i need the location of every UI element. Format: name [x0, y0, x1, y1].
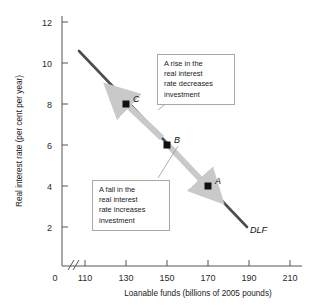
x-tick-label-210: 210	[282, 273, 297, 283]
loanable-funds-demand-figure: 12 10 8 6 4 2 0 110 130 150 170 190 210 …	[0, 0, 316, 305]
x-axis-title: Loanable funds (billions of 2005 pounds)	[124, 289, 272, 298]
data-point-a	[205, 183, 212, 190]
y-tick-label-10: 10	[42, 59, 52, 69]
callout-fall-line-3: rate increases	[99, 205, 164, 215]
callout-rise: A rise in the real interest rate decreas…	[157, 54, 235, 105]
callout-rise-line-1: A rise in the	[164, 59, 229, 69]
y-tick-label-6: 6	[47, 141, 52, 151]
callout-fall-line-1: A fall in the	[99, 185, 164, 195]
y-axis-title: Real interest rate (per cent per year)	[15, 75, 24, 207]
chart-canvas: 12 10 8 6 4 2 0 110 130 150 170 190 210 …	[0, 0, 316, 305]
x-axis-ticks	[85, 260, 290, 266]
callout-fall-leader-line	[158, 146, 178, 178]
data-point-b	[164, 142, 171, 149]
callout-fall-line-4: investment	[99, 216, 164, 226]
arrow-down-right-icon	[168, 145, 204, 183]
callout-fall: A fall in the real interest rate increas…	[92, 180, 170, 231]
data-point-label-a: A	[214, 176, 221, 186]
data-point-c	[123, 101, 130, 108]
y-tick-label-12: 12	[42, 18, 52, 28]
x-tick-label-170: 170	[200, 273, 215, 283]
y-tick-label-8: 8	[47, 100, 52, 110]
callout-rise-line-4: investment	[164, 90, 229, 100]
callout-rise-line-3: rate decreases	[164, 79, 229, 89]
x-tick-label-190: 190	[241, 273, 256, 283]
callout-rise-line-2: real interest	[164, 69, 229, 79]
axis-break-icon	[68, 260, 79, 270]
data-point-label-b: B	[174, 135, 180, 145]
arrow-up-left-icon	[125, 103, 162, 138]
x-tick-label-110: 110	[78, 273, 92, 283]
curve-label-dlf: DLF	[250, 225, 268, 235]
y-tick-label-4: 4	[47, 182, 52, 192]
x-tick-label-130: 130	[118, 273, 133, 283]
y-axis-ticks	[62, 22, 68, 227]
x-tick-label-0: 0	[52, 273, 57, 283]
callout-fall-line-2: real interest	[99, 195, 164, 205]
x-tick-label-150: 150	[159, 273, 174, 283]
y-tick-label-2: 2	[47, 223, 52, 233]
data-point-label-c: C	[133, 94, 140, 104]
